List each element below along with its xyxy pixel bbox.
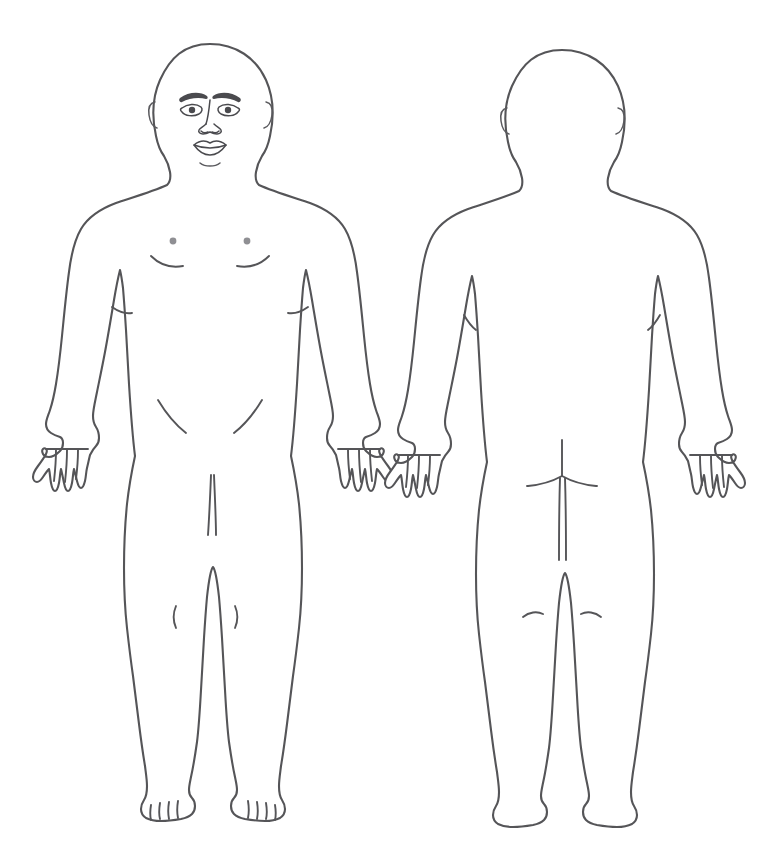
anterior-right-toe-1 bbox=[275, 805, 276, 820]
anterior-body-outline bbox=[33, 44, 393, 821]
anterior-right-toe-2 bbox=[266, 803, 267, 819]
axillary-crease-left bbox=[464, 315, 476, 330]
figure-anterior[interactable] bbox=[33, 44, 393, 821]
nipple-left bbox=[170, 238, 177, 245]
posterior-body-outline bbox=[385, 50, 745, 827]
anterior-left-toe-1 bbox=[150, 805, 151, 820]
nipple-right bbox=[244, 238, 251, 245]
body-chart-svg bbox=[0, 0, 778, 865]
anterior-right-toe-3 bbox=[257, 802, 258, 819]
posterior-midline-left bbox=[559, 478, 560, 560]
anterior-left-toe-4 bbox=[177, 801, 178, 818]
anterior-left-toe-2 bbox=[159, 803, 160, 819]
body-chart-canvas bbox=[0, 0, 778, 865]
pupil-left-icon bbox=[189, 107, 195, 113]
pupil-right-icon bbox=[225, 107, 231, 113]
figure-posterior[interactable] bbox=[385, 50, 745, 827]
posterior-midline-right bbox=[565, 478, 566, 560]
anterior-right-toe-4 bbox=[248, 801, 249, 818]
anterior-left-toe-3 bbox=[168, 802, 169, 819]
